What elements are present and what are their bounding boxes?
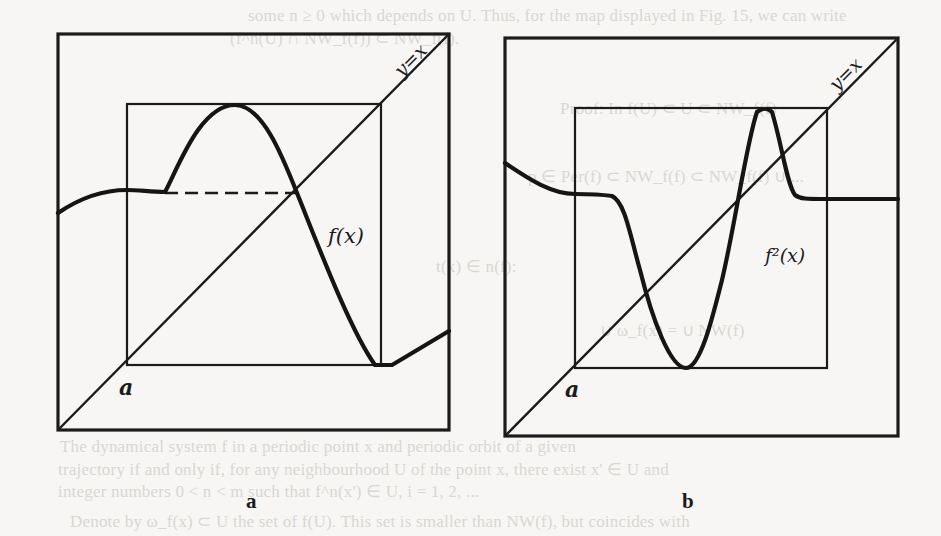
identity-line-label: y=x <box>389 39 432 82</box>
curve-label-f: f(x) <box>326 224 364 248</box>
panel-b: y=x f²(x) a b <box>505 38 898 513</box>
map-curve-f <box>58 105 449 365</box>
origin-label: a <box>119 374 133 400</box>
panel-caption-a: a <box>246 489 257 513</box>
identity-line <box>505 38 898 436</box>
panel-caption-b: b <box>682 489 694 513</box>
origin-label: a <box>565 376 579 402</box>
identity-line-label: y=x <box>824 53 867 96</box>
panel-a: y=x f(x) a a <box>58 34 449 513</box>
figure-maps: y=x f(x) a a y=x f²(x) a b <box>0 0 941 536</box>
curve-label-f-squared: f²(x) <box>763 244 805 266</box>
identity-line <box>58 34 449 430</box>
